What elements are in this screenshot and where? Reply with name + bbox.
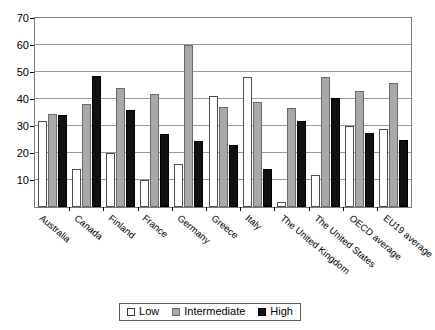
bar-low xyxy=(243,77,252,207)
bar-low xyxy=(38,121,47,207)
legend-label: High xyxy=(270,306,293,317)
bar-high xyxy=(58,115,67,207)
legend-label: Intermediate xyxy=(184,306,245,317)
x-axis-tick-label: Australia xyxy=(38,213,72,244)
bar-high xyxy=(263,169,272,207)
bar-intermediate xyxy=(219,107,228,207)
bar-low xyxy=(174,164,183,207)
bar-intermediate xyxy=(184,45,193,207)
bar-group xyxy=(138,18,172,207)
bar-group xyxy=(274,18,308,207)
bar-low xyxy=(379,129,388,207)
legend-swatch-intermediate-icon xyxy=(172,308,180,316)
bar-group xyxy=(172,18,206,207)
bar-intermediate xyxy=(355,91,364,207)
y-axis-tick-label: 30 xyxy=(3,121,29,132)
bar-groups xyxy=(35,18,411,207)
bar-high xyxy=(229,145,238,207)
x-axis-tick-label: France xyxy=(141,213,170,239)
legend-item-high: High xyxy=(258,306,293,317)
bar-high xyxy=(365,133,374,207)
y-axis-tick-label: 10 xyxy=(3,175,29,186)
bar-group xyxy=(103,18,137,207)
y-axis-tick-label: 40 xyxy=(3,94,29,105)
x-axis-tick-label: Italy xyxy=(244,213,263,231)
bar-high xyxy=(160,134,169,207)
legend-item-low: Low xyxy=(127,306,159,317)
bar-high xyxy=(399,140,408,208)
bar-low xyxy=(72,169,81,207)
y-axis-tick-label: 50 xyxy=(3,67,29,78)
bar-group xyxy=(69,18,103,207)
x-axis-tick-label: The United States xyxy=(313,213,377,269)
x-axis-tick-label: Canada xyxy=(73,213,105,242)
bar-group xyxy=(35,18,69,207)
bar-intermediate xyxy=(253,102,262,207)
plot-area xyxy=(34,17,412,208)
bar-low xyxy=(277,202,286,207)
x-axis-tick-label: Finland xyxy=(107,213,137,240)
bar-low xyxy=(311,175,320,207)
legend-swatch-low-icon xyxy=(127,308,135,316)
bar-group xyxy=(343,18,377,207)
bar-high xyxy=(126,110,135,207)
bar-high xyxy=(297,121,306,207)
bar-high xyxy=(194,141,203,207)
bar-intermediate xyxy=(116,88,125,207)
bar-intermediate xyxy=(287,108,296,207)
bar-group xyxy=(377,18,411,207)
bar-intermediate xyxy=(48,114,57,207)
bar-group xyxy=(206,18,240,207)
bar-high xyxy=(92,76,101,207)
bar-intermediate xyxy=(150,94,159,207)
bar-group xyxy=(240,18,274,207)
y-axis-tick-label: 20 xyxy=(3,148,29,159)
y-axis-tick-label: 60 xyxy=(3,40,29,51)
legend-swatch-high-icon xyxy=(258,308,266,316)
y-axis-tick-label: 70 xyxy=(3,13,29,24)
bar-low xyxy=(209,96,218,207)
chart-legend: LowIntermediateHigh xyxy=(119,303,301,321)
x-axis-tick-label: Germany xyxy=(176,213,212,245)
bar-group xyxy=(309,18,343,207)
bar-low xyxy=(140,180,149,207)
bar-intermediate xyxy=(389,83,398,207)
x-axis-labels: AustraliaCanadaFinlandFranceGermanyGreec… xyxy=(34,209,412,294)
bar-low xyxy=(345,126,354,207)
bar-high xyxy=(331,98,340,207)
bar-intermediate xyxy=(321,77,330,207)
bar-low xyxy=(106,153,115,207)
legend-label: Low xyxy=(139,306,159,317)
bar-intermediate xyxy=(82,104,91,207)
x-axis-tick-label: Greece xyxy=(210,213,240,240)
legend-item-intermediate: Intermediate xyxy=(172,306,245,317)
